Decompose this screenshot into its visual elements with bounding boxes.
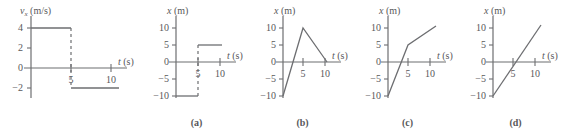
x-axis-label-unit: (s) bbox=[337, 50, 348, 62]
y-axis-label-unit: (m) bbox=[174, 5, 188, 17]
x-tick-label-10: 10 bbox=[106, 74, 116, 85]
panel-option-a: 10 5 0 −5 −10 5 10 x (m) t (s) (a) bbox=[143, 0, 250, 134]
y-tick-label-0: 0 bbox=[481, 56, 486, 67]
option-b-svg: 10 5 0 −5 −10 5 10 x (m) t (s) bbox=[250, 0, 355, 112]
panel-caption-b: (b) bbox=[250, 117, 355, 128]
y-tick-label-minus10: −10 bbox=[153, 90, 169, 101]
velocity-graph-svg: 4 2 0 −2 5 10 vx (m/s) t (s) bbox=[0, 0, 143, 112]
option-c-svg: 10 5 0 −5 −10 5 10 x (m) t (s) bbox=[355, 0, 460, 112]
y-tick-label-0: 0 bbox=[271, 56, 276, 67]
x-tick-label-5: 5 bbox=[406, 68, 411, 79]
panel-caption-c: (c) bbox=[355, 117, 460, 128]
y-axis-label-unit: (m/s) bbox=[30, 5, 51, 17]
y-tick-label-5: 5 bbox=[271, 39, 276, 50]
panel-caption-a: (a) bbox=[143, 117, 250, 128]
y-tick-label-5: 5 bbox=[164, 39, 169, 50]
y-tick-label-0: 0 bbox=[376, 56, 381, 67]
option-d-svg: 10 5 0 −5 −10 5 10 x (m) t (s) bbox=[460, 0, 571, 112]
y-tick-label-minus10: −10 bbox=[470, 90, 486, 101]
y-tick-label-minus5: −5 bbox=[265, 73, 276, 84]
x-axis-label-unit: (s) bbox=[123, 56, 134, 68]
y-tick-label-minus5: −5 bbox=[370, 73, 381, 84]
y-axis-label: x (m) bbox=[166, 5, 188, 17]
x-axis-label-unit: (s) bbox=[442, 50, 453, 62]
panel-option-c: 10 5 0 −5 −10 5 10 x (m) t (s) (c) bbox=[355, 0, 460, 134]
y-tick-label-minus5: −5 bbox=[475, 73, 486, 84]
x-tick-label-5: 5 bbox=[301, 68, 306, 79]
y-tick-label-minus2: −2 bbox=[12, 82, 23, 93]
x-axis-label-unit: (s) bbox=[547, 50, 558, 62]
y-axis-label: vx (m/s) bbox=[20, 5, 51, 18]
y-tick-label-10: 10 bbox=[159, 22, 169, 33]
y-axis-label: x (m) bbox=[483, 5, 505, 17]
x-axis-label: t (s) bbox=[437, 50, 453, 62]
x-axis-label: t (s) bbox=[227, 50, 243, 62]
x-axis-label: t (s) bbox=[118, 56, 134, 68]
panel-velocity-graph: 4 2 0 −2 5 10 vx (m/s) t (s) bbox=[0, 0, 143, 134]
x-tick-label-10: 10 bbox=[320, 68, 330, 79]
y-axis-label-unit: (m) bbox=[386, 5, 400, 17]
data-line-position bbox=[493, 25, 541, 96]
x-axis-label-unit: (s) bbox=[232, 50, 243, 62]
x-tick-label-10: 10 bbox=[530, 68, 540, 79]
y-axis-label-unit: (m) bbox=[281, 5, 295, 17]
y-tick-label-4: 4 bbox=[18, 22, 23, 33]
x-tick-label-10: 10 bbox=[425, 68, 435, 79]
y-tick-label-5: 5 bbox=[376, 39, 381, 50]
y-tick-label-0: 0 bbox=[164, 56, 169, 67]
x-tick-label-10: 10 bbox=[215, 68, 225, 79]
y-tick-label-10: 10 bbox=[371, 22, 381, 33]
panel-caption-d: (d) bbox=[460, 117, 571, 128]
y-tick-label-0: 0 bbox=[18, 62, 23, 73]
data-line-position bbox=[388, 26, 436, 96]
option-a-svg: 10 5 0 −5 −10 5 10 x (m) t (s) bbox=[143, 0, 250, 112]
panel-option-d: 10 5 0 −5 −10 5 10 x (m) t (s) (d) bbox=[460, 0, 571, 134]
x-axis-label: t (s) bbox=[542, 50, 558, 62]
panel-option-b: 10 5 0 −5 −10 5 10 x (m) t (s) (b) bbox=[250, 0, 355, 134]
y-tick-label-2: 2 bbox=[18, 42, 23, 53]
y-axis-label: x (m) bbox=[273, 5, 295, 17]
y-tick-label-minus10: −10 bbox=[365, 90, 381, 101]
x-axis-label: t (s) bbox=[332, 50, 348, 62]
y-axis-label-unit: (m) bbox=[491, 5, 505, 17]
y-tick-label-5: 5 bbox=[481, 39, 486, 50]
y-tick-label-10: 10 bbox=[266, 22, 276, 33]
figure-row: 4 2 0 −2 5 10 vx (m/s) t (s) bbox=[0, 0, 571, 134]
y-tick-label-minus10: −10 bbox=[260, 90, 276, 101]
y-axis-label: x (m) bbox=[378, 5, 400, 17]
y-tick-label-10: 10 bbox=[476, 22, 486, 33]
y-tick-label-minus5: −5 bbox=[158, 73, 169, 84]
